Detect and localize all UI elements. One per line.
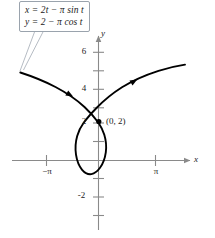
axis-group [12,36,190,230]
cusp-point-label: (0, 2) [106,116,126,126]
y-tick-label-6: 6 [78,46,90,56]
parametric-equations-callout: x = 2t − π sin t y = 2 − π cos t [19,1,90,32]
x-tick-label-minus-pi: −π [38,166,56,176]
x-tick-label-pi: π [149,166,163,176]
equation-x: x = 2t − π sin t [25,4,84,16]
callout-tail [20,28,45,71]
y-tick-label-2: 2 [78,116,90,126]
curve-path [20,65,185,175]
cusp-point-marker [96,119,101,124]
x-axis-label: x [194,154,198,164]
parametric-curve [20,65,185,175]
y-tick-label-minus2: -2 [73,190,90,200]
y-axis-label: y [101,28,105,38]
y-tick-label-4: 4 [78,83,90,93]
parametric-curve-figure: x = 2t − π sin t y = 2 − π cos t y x 6 4… [0,0,215,238]
equation-y: y = 2 − π cos t [25,16,84,28]
